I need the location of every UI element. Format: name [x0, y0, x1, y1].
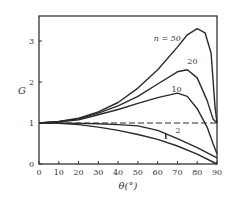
series-line	[39, 123, 217, 164]
series-annotation: 1	[164, 132, 169, 141]
series-annotation: 2	[175, 126, 180, 135]
x-tick-label: 10	[54, 168, 64, 177]
x-tick-label: 80	[192, 168, 202, 177]
series-annotation: n = 50	[154, 34, 181, 43]
series-line	[39, 70, 217, 123]
x-tick-label: 60	[153, 168, 163, 177]
plot-frame	[39, 16, 217, 164]
x-tick-label: 40	[113, 168, 123, 177]
y-tick-label: 3	[29, 37, 34, 46]
y-tick-label: 0	[29, 160, 34, 169]
y-tick-label: 2	[29, 78, 34, 87]
x-tick-label: 90	[212, 168, 222, 177]
x-tick-label: 70	[172, 168, 182, 177]
x-tick-label: 30	[93, 168, 103, 177]
x-tick-label: 20	[73, 168, 83, 177]
y-axis-label: G	[18, 85, 26, 96]
series-annotation: 10	[172, 85, 182, 94]
x-tick-label: 50	[133, 168, 143, 177]
x-axis-label: θ(°)	[119, 180, 138, 191]
y-tick-label: 1	[29, 119, 34, 128]
series-line	[39, 29, 217, 123]
x-tick-label: 0	[36, 168, 41, 177]
series-annotation: 20	[187, 57, 197, 66]
chart-svg: 01020304050607080900123θ(°)Gn = 50201021	[0, 0, 232, 202]
series-line	[39, 123, 217, 158]
